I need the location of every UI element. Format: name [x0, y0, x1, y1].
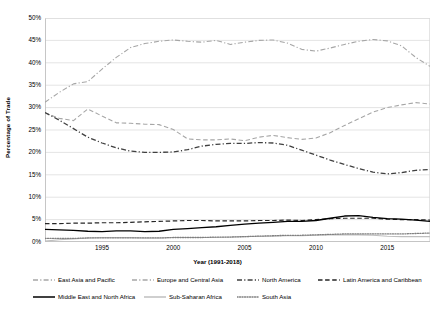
legend-item[interactable]: East Asia and Pacific — [33, 273, 115, 287]
x-axis-tick-label: 2005 — [238, 244, 252, 251]
legend-item[interactable]: Sub-Saharan Africa — [144, 290, 222, 304]
trade-percentage-line-chart: Percentage of Trade 0%5%10%15%20%25%30%3… — [0, 0, 435, 319]
legend-label: Europe and Central Asia — [157, 277, 223, 283]
legend-line-swatch — [33, 275, 55, 285]
legend-item[interactable]: Middle East and North Africa — [33, 290, 135, 304]
y-axis-tick-label: 40% — [14, 60, 41, 66]
y-axis-title-text: Percentage of Trade — [5, 97, 12, 158]
legend-swatch — [318, 275, 340, 285]
legend-swatch — [33, 275, 55, 285]
legend-item[interactable]: Latin America and Caribbean — [318, 273, 422, 287]
legend-swatch — [237, 292, 259, 302]
y-axis-tick-label: 15% — [14, 172, 41, 178]
x-axis-tick-label: 2000 — [166, 244, 180, 251]
x-axis-tick-label: 2010 — [309, 244, 323, 251]
legend-label: South Asia — [262, 294, 291, 300]
legend-row: Middle East and North AfricaSub-Saharan … — [0, 290, 435, 304]
legend-label: East Asia and Pacific — [58, 277, 115, 283]
y-axis-tick-label: 25% — [14, 127, 41, 133]
y-axis-tick-label: 45% — [14, 37, 41, 43]
x-axis-tick-labels: 19952000200520102015 — [45, 244, 430, 256]
legend-line-swatch — [318, 275, 340, 285]
chart-legend: East Asia and PacificEurope and Central … — [0, 272, 435, 316]
x-axis-tick-label: 1995 — [95, 244, 109, 251]
legend-swatch — [33, 292, 55, 302]
y-axis-tick-label: 35% — [14, 82, 41, 88]
legend-line-swatch — [144, 292, 166, 302]
legend-label: Middle East and North Africa — [58, 294, 135, 300]
y-axis-tick-labels: 0%5%10%15%20%25%30%35%40%45%50% — [14, 0, 41, 255]
legend-line-swatch — [237, 275, 259, 285]
legend-item[interactable]: Europe and Central Asia — [132, 273, 223, 287]
y-axis-tick-label: 50% — [14, 15, 41, 21]
legend-label: Sub-Saharan Africa — [169, 294, 222, 300]
legend-item[interactable]: South Asia — [237, 290, 291, 304]
plot-area — [45, 18, 430, 242]
y-axis-tick-label: 0% — [14, 239, 41, 245]
legend-swatch — [237, 275, 259, 285]
plot-svg — [45, 18, 430, 242]
legend-label: Latin America and Caribbean — [343, 277, 422, 283]
legend-line-swatch — [33, 292, 55, 302]
legend-swatch — [144, 292, 166, 302]
y-axis-tick-label: 5% — [14, 216, 41, 222]
legend-label: North America — [262, 277, 301, 283]
legend-row: East Asia and PacificEurope and Central … — [0, 273, 435, 287]
legend-item[interactable]: North America — [237, 273, 301, 287]
y-axis-tick-label: 10% — [14, 194, 41, 200]
x-axis-title: Year (1991-2018) — [0, 258, 435, 265]
legend-line-swatch — [132, 275, 154, 285]
y-axis-tick-label: 30% — [14, 104, 41, 110]
legend-line-swatch — [237, 292, 259, 302]
x-axis-tick-label: 2015 — [380, 244, 394, 251]
y-axis-tick-label: 20% — [14, 149, 41, 155]
legend-swatch — [132, 275, 154, 285]
